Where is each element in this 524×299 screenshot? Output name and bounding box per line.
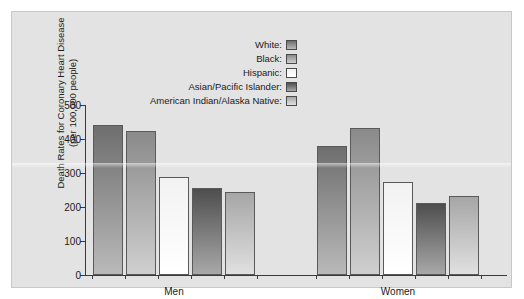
bar-women-0 xyxy=(317,146,347,275)
x-tick-mark xyxy=(382,275,383,279)
x-tick-mark xyxy=(481,275,482,279)
y-tick-label: 0 xyxy=(75,270,81,281)
y-tick-label: 100 xyxy=(64,236,81,247)
legend-label-hispanic: Hispanic: xyxy=(243,67,286,78)
legend-label-black: Black: xyxy=(256,53,286,64)
legend-item-hispanic: Hispanic: xyxy=(162,66,297,79)
legend-item-white: White: xyxy=(162,38,297,51)
x-tick-mark xyxy=(448,275,449,279)
bar-men-4 xyxy=(225,192,255,275)
legend-label-white: White: xyxy=(255,39,286,50)
bar-men-2 xyxy=(159,177,189,275)
chart-panel: White: Black: Hispanic: Asian/Pacific Is… xyxy=(11,11,512,288)
bar-men-3 xyxy=(192,188,222,275)
y-tick-label: 500 xyxy=(64,100,81,111)
legend: White: Black: Hispanic: Asian/Pacific Is… xyxy=(162,38,297,108)
legend-label-asian-pacific-islander: Asian/Pacific Islander: xyxy=(189,81,286,92)
x-tick-mark xyxy=(415,275,416,279)
legend-item-asian-pacific-islander: Asian/Pacific Islander: xyxy=(162,80,297,93)
x-tick-mark xyxy=(191,275,192,279)
legend-item-black: Black: xyxy=(162,52,297,65)
x-tick-mark xyxy=(224,275,225,279)
x-tick-mark xyxy=(257,275,258,279)
legend-swatch-asian-pacific-islander xyxy=(286,82,297,92)
legend-swatch-black xyxy=(286,54,297,64)
figure-container: White: Black: Hispanic: Asian/Pacific Is… xyxy=(0,0,524,299)
legend-swatch-hispanic xyxy=(286,68,297,78)
bar-women-1 xyxy=(350,128,380,275)
plot-area xyxy=(85,105,506,275)
y-tick-label: 200 xyxy=(64,202,81,213)
x-tick-mark xyxy=(316,275,317,279)
bar-women-4 xyxy=(449,196,479,275)
x-group-label-women: Women xyxy=(381,286,415,297)
x-tick-mark xyxy=(92,275,93,279)
x-tick-mark xyxy=(158,275,159,279)
x-tick-mark xyxy=(349,275,350,279)
y-axis-title: Death Rates for Coronary Heart Disease (… xyxy=(36,98,64,284)
bar-men-1 xyxy=(126,131,156,275)
legend-swatch-american-indian-alaska-native xyxy=(286,96,297,106)
y-tick-label: 300 xyxy=(64,168,81,179)
bar-women-2 xyxy=(383,182,413,275)
bar-men-0 xyxy=(93,125,123,275)
y-tick-label: 400 xyxy=(64,134,81,145)
x-tick-mark xyxy=(125,275,126,279)
bar-women-3 xyxy=(416,203,446,275)
x-group-label-men: Men xyxy=(164,286,183,297)
legend-swatch-white xyxy=(286,40,297,50)
x-axis-line xyxy=(85,275,507,276)
